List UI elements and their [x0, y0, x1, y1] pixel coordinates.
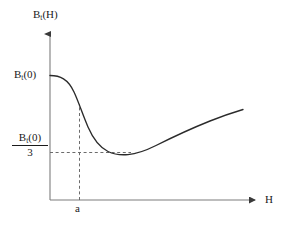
x-axis-title: H — [265, 194, 273, 205]
plot-canvas — [0, 0, 282, 227]
curve-bt-of-h — [50, 76, 243, 155]
y-intercept-arg: (0) — [23, 68, 36, 80]
y-axis-title: Bt(H) — [33, 9, 58, 21]
y-intercept-label: Bt(0) — [14, 69, 36, 81]
y-axis-title-arg: (H) — [42, 8, 57, 20]
figure-container: Bt(H) H Bt(0) Bt(0) 3 a — [0, 0, 282, 227]
fraction-numerator: Bt(0) — [12, 132, 48, 145]
minimum-level-label: Bt(0) 3 — [12, 132, 48, 158]
fraction-denominator: 3 — [12, 146, 48, 158]
fraction-numerator-arg: (0) — [28, 131, 41, 143]
x-tick-label-a: a — [75, 203, 80, 214]
